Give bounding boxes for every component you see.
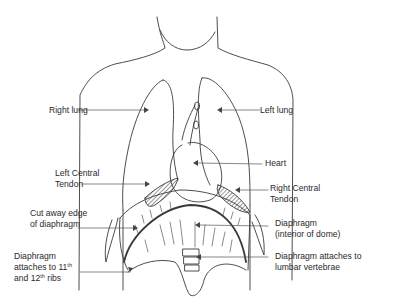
- label-left-central-tendon-line1: Left Central: [55, 168, 99, 179]
- arrow-lumbar: [196, 254, 201, 260]
- label-left-central-tendon-line2: Tendon: [55, 179, 99, 190]
- arrow-left-lung: [217, 107, 222, 113]
- label-lumbar-vertebrae: Diaphragm attaches to lumbar vertebrae: [275, 251, 361, 273]
- neck-curve: [160, 30, 215, 50]
- arrow-right-lung: [144, 107, 149, 113]
- leader-heart: [196, 163, 262, 164]
- label-ribs: Diaphragm attaches to 11th and 12th ribs: [14, 251, 72, 284]
- arrow-diaphragm-interior: [195, 222, 200, 228]
- body-outline-right: [217, 17, 293, 280]
- label-ribs-line2-text: attaches to 11: [14, 262, 67, 272]
- label-ribs-line3: and 12th ribs: [14, 273, 72, 284]
- arrow-heart: [193, 160, 198, 166]
- left-lung-outline: [198, 78, 250, 205]
- label-ribs-line3-text: and 12: [14, 273, 40, 283]
- label-right-central-tendon: Right Central Tendon: [270, 183, 320, 205]
- label-right-lung: Right lung: [49, 105, 88, 116]
- label-cut-away-edge: Cut away edge of diaphragm: [30, 208, 87, 230]
- label-lumbar-line2: lumbar vertebrae: [275, 262, 361, 273]
- label-left-central-tendon: Left Central Tendon: [55, 168, 99, 190]
- label-right-central-tendon-line1: Right Central: [270, 183, 320, 194]
- aorta: [182, 105, 198, 145]
- body-outline-left: [79, 17, 165, 290]
- label-diaphragm-interior-line2: (interior of dome): [275, 229, 340, 240]
- label-diaphragm-interior-line1: Diaphragm: [275, 218, 340, 229]
- diaphragm-lower: [128, 260, 246, 295]
- rib-left: [105, 218, 118, 262]
- lumbar-vertebra-3: [185, 265, 199, 271]
- label-cut-away-line2: of diaphragm: [30, 219, 87, 230]
- rib-right: [252, 215, 264, 255]
- diaphragm-cut-edge: [124, 205, 246, 262]
- label-heart: Heart: [265, 158, 286, 169]
- label-ribs-line2-sup: th: [67, 262, 72, 268]
- label-left-lung-text: Left lung: [260, 105, 293, 115]
- diaphragm-striations: [135, 202, 240, 252]
- vessel-top-2: [194, 121, 199, 129]
- lumbar-vertebra-1: [183, 249, 199, 256]
- lumbar-vertebra-2: [184, 257, 199, 264]
- label-ribs-line1: Diaphragm: [14, 251, 72, 262]
- arrow-right-tendon: [235, 187, 240, 193]
- left-central-tendon: [145, 178, 178, 206]
- leader-diaphragm-interior: [198, 225, 268, 226]
- heart-outline: [170, 142, 222, 202]
- label-ribs-line2: attaches to 11th: [14, 262, 72, 273]
- label-cut-away-line1: Cut away edge: [30, 208, 87, 219]
- label-lumbar-line1: Diaphragm attaches to: [275, 251, 361, 262]
- label-ribs-line3-tail: ribs: [45, 273, 61, 283]
- label-heart-text: Heart: [265, 158, 286, 168]
- label-diaphragm-interior: Diaphragm (interior of dome): [275, 218, 340, 240]
- diagram: Right lung Left lung Heart Left Central …: [0, 0, 394, 306]
- label-right-central-tendon-line2: Tendon: [270, 194, 320, 205]
- label-right-lung-text: Right lung: [49, 105, 88, 115]
- right-central-tendon: [217, 185, 250, 212]
- arrow-left-tendon: [145, 181, 150, 187]
- label-left-lung: Left lung: [260, 105, 293, 116]
